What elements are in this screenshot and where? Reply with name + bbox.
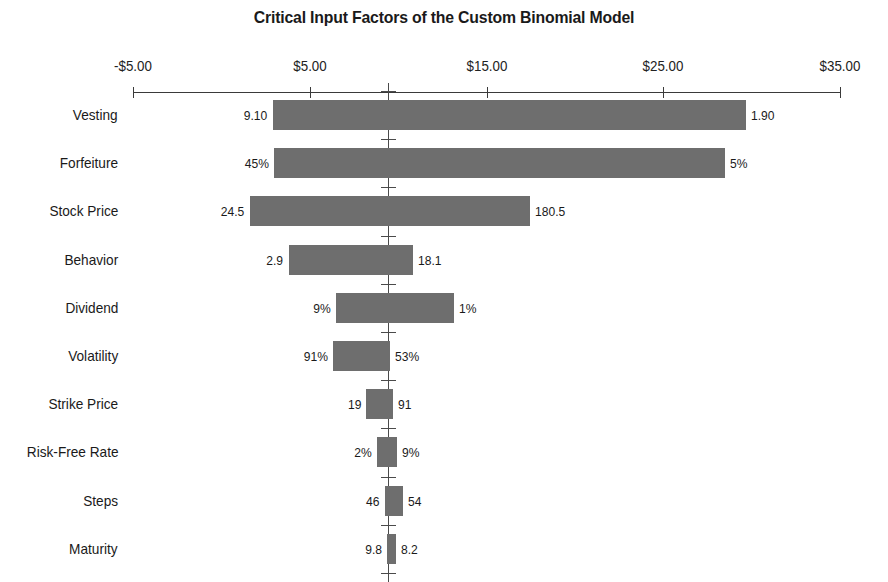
bar-vesting: [273, 100, 747, 130]
bar-value-high: 5%: [730, 156, 747, 171]
bar-risk-free-rate: [377, 437, 397, 467]
bar-strike-price: [366, 389, 393, 419]
base-axis-tick: [381, 380, 396, 381]
bar-value-high: 8.2: [401, 541, 418, 556]
bar-value-high: 180.5: [535, 204, 565, 219]
axis-tick: [487, 87, 488, 98]
axis-tick-label: $35.00: [820, 58, 861, 74]
axis-tick-label: $5.00: [293, 58, 326, 74]
tornado-chart: Critical Input Factors of the Custom Bin…: [0, 0, 888, 582]
base-axis-tick: [381, 236, 396, 237]
axis-tick-label: -$5.00: [114, 58, 152, 74]
bar-value-high: 53%: [395, 349, 419, 364]
base-axis-tick: [381, 428, 396, 429]
bar-behavior: [289, 245, 414, 275]
bar-value-high: 91: [398, 397, 411, 412]
category-label-forfeiture: Forfeiture: [60, 155, 118, 171]
bar-value-high: 54: [408, 493, 421, 508]
category-label-volatility: Volatility: [68, 348, 118, 364]
bar-value-low: 2.9: [267, 252, 284, 267]
base-axis-tick: [381, 187, 396, 188]
category-label-strike-price: Strike Price: [48, 396, 118, 412]
axis-tick-label: $25.00: [643, 58, 684, 74]
category-label-vesting: Vesting: [73, 107, 118, 123]
category-label-behavior: Behavior: [64, 252, 118, 268]
bar-volatility: [333, 341, 390, 371]
base-axis-tick: [381, 284, 396, 285]
bar-value-low: 9.8: [365, 541, 382, 556]
bar-value-high: 9%: [402, 445, 419, 460]
bar-value-high: 18.1: [418, 252, 442, 267]
category-label-risk-free-rate: Risk-Free Rate: [26, 444, 118, 460]
bar-value-high: 1.90: [751, 108, 775, 123]
base-axis-tick: [381, 525, 396, 526]
chart-title: Critical Input Factors of the Custom Bin…: [31, 8, 857, 28]
base-axis-tick: [381, 573, 396, 574]
bar-value-low: 2%: [354, 445, 371, 460]
axis-tick: [840, 87, 841, 98]
bar-value-low: 91%: [304, 349, 328, 364]
bar-value-low: 9%: [314, 300, 331, 315]
bar-value-low: 45%: [244, 156, 268, 171]
bar-forfeiture: [274, 148, 726, 178]
base-axis-tick: [381, 139, 396, 140]
bar-value-low: 9.10: [244, 108, 268, 123]
bar-maturity: [387, 534, 397, 564]
bar-value-low: 19: [348, 397, 361, 412]
category-label-stock-price: Stock Price: [49, 203, 118, 219]
base-axis-tick: [381, 332, 396, 333]
axis-tick-label: $15.00: [466, 58, 507, 74]
axis-tick: [663, 87, 664, 98]
category-label-dividend: Dividend: [65, 300, 118, 316]
bar-stock-price: [250, 196, 530, 226]
axis-tick: [133, 87, 134, 98]
base-axis-tick: [381, 477, 396, 478]
category-label-steps: Steps: [83, 493, 118, 509]
bar-value-high: 1%: [459, 300, 476, 315]
bar-dividend: [336, 293, 454, 323]
base-axis-tick: [381, 91, 396, 92]
category-label-maturity: Maturity: [70, 541, 118, 557]
bar-value-low: 46: [366, 493, 379, 508]
axis-tick: [310, 87, 311, 98]
bar-value-low: 24.5: [221, 204, 245, 219]
bar-steps: [385, 486, 404, 516]
